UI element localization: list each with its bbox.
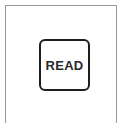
- read-button-label: READ: [45, 59, 83, 72]
- read-button[interactable]: READ: [39, 39, 90, 91]
